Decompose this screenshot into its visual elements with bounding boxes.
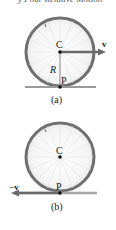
- radius-label: R: [49, 64, 56, 75]
- caption-b: (b): [51, 201, 63, 213]
- contact-label-b: P: [56, 181, 62, 192]
- caption-a: (a): [51, 94, 62, 106]
- vector-label-b: −v⃗: [9, 182, 26, 192]
- panel-a: C R P v⃗ (a): [25, 18, 114, 106]
- center-label-b: C: [56, 145, 63, 156]
- center-label-a: C: [56, 39, 63, 50]
- panel-b: C P −v⃗ (b): [9, 123, 97, 213]
- rolling-wheel-diagram: C R P v⃗ (a) C P: [0, 0, 116, 230]
- vector-label-a: v⃗: [102, 39, 114, 49]
- center-point-a: [58, 50, 62, 54]
- contact-label-a: P: [61, 75, 67, 86]
